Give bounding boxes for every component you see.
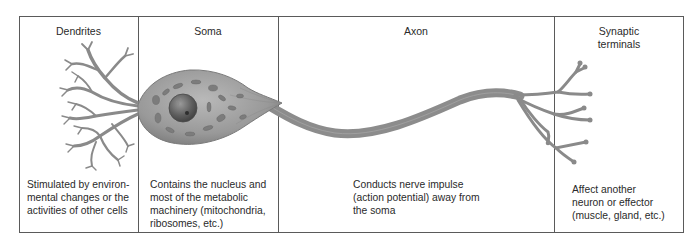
description-line: Stimulated by environ-	[27, 178, 129, 191]
axon-graphic	[250, 93, 520, 134]
dendrites-graphic	[60, 42, 138, 170]
description-line: activities of other cells	[27, 204, 129, 217]
description-line: most of the metabolic	[150, 191, 266, 204]
description-axon: Conducts nerve impulse (action potential…	[353, 178, 479, 217]
description-line: ribosomes, etc.)	[150, 217, 266, 230]
description-line: mental changes or the	[27, 191, 129, 204]
description-line: Contains the nucleus and	[150, 178, 266, 191]
description-line: neuron or effector	[572, 196, 665, 209]
description-line: Conducts nerve impulse	[353, 178, 479, 191]
title-synaptic-terminals: Synaptic terminals	[554, 25, 684, 51]
title-line: terminals	[554, 38, 684, 51]
description-line: Affect another	[572, 183, 665, 196]
description-dendrites: Stimulated by environ- mental changes or…	[27, 178, 129, 217]
title-dendrites: Dendrites	[19, 25, 138, 38]
description-line: the soma	[353, 204, 479, 217]
synaptic-terminals-graphic	[515, 64, 590, 162]
nucleus-graphic	[169, 94, 197, 122]
title-axon: Axon	[278, 25, 554, 38]
description-line: (action potential) away from	[353, 191, 479, 204]
description-synaptic-terminals: Affect another neuron or effector (muscl…	[572, 183, 665, 222]
description-line: (muscle, gland, etc.)	[572, 209, 665, 222]
description-soma: Contains the nucleus and most of the met…	[150, 178, 266, 230]
title-soma: Soma	[138, 25, 278, 38]
title-line: Synaptic	[554, 25, 684, 38]
description-line: machinery (mitochondria,	[150, 204, 266, 217]
